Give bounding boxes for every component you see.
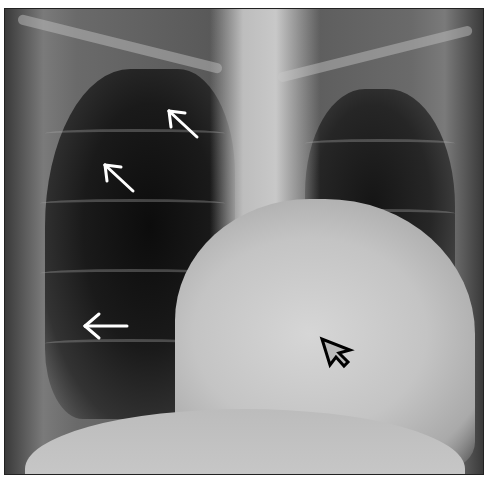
rib <box>305 139 455 148</box>
cropped-caption <box>0 0 487 8</box>
rib <box>40 199 225 208</box>
white-arrow-upper-2 <box>99 159 139 199</box>
chest-xray-image <box>4 8 484 475</box>
white-arrow-lower <box>81 309 131 343</box>
black-arrow-cardiac-icon <box>319 336 355 372</box>
white-arrow-upper-1 <box>163 105 203 145</box>
